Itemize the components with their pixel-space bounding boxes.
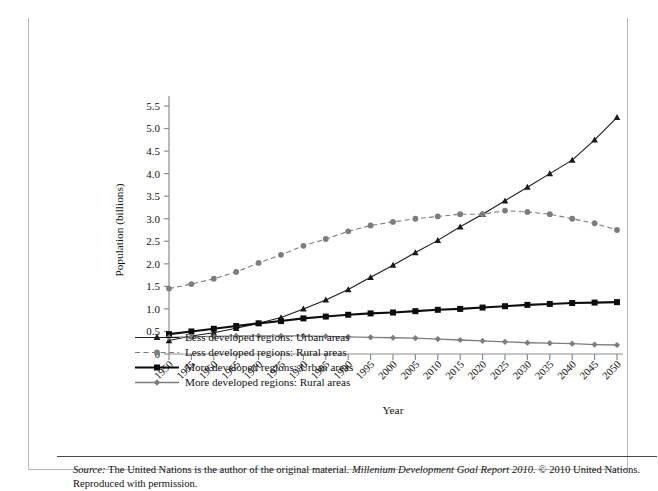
y-axis-tick-label: 1.5 bbox=[146, 280, 160, 292]
data-point bbox=[524, 302, 530, 308]
data-point bbox=[524, 340, 530, 346]
line-chart: 00.51.01.52.02.53.03.54.04.55.05.5Popula… bbox=[57, 84, 657, 456]
chart-legend: Less developed regions: Urban areas Less… bbox=[134, 330, 494, 390]
data-point bbox=[502, 339, 508, 345]
legend-item: More developed regions: Urban areas bbox=[134, 360, 494, 375]
data-point bbox=[390, 310, 396, 316]
data-point bbox=[569, 341, 575, 347]
data-point bbox=[502, 197, 509, 203]
y-axis-tick-label: 2.5 bbox=[146, 235, 160, 247]
data-point bbox=[547, 301, 553, 307]
data-point bbox=[614, 227, 620, 233]
data-point bbox=[345, 228, 351, 234]
data-point bbox=[300, 315, 306, 321]
series-0 bbox=[166, 114, 621, 343]
data-point bbox=[547, 211, 553, 217]
data-point bbox=[390, 219, 396, 225]
legend-key-square bbox=[134, 361, 180, 374]
y-axis-title: Population (billions) bbox=[113, 183, 126, 276]
legend-label: More developed regions: Urban areas bbox=[185, 360, 353, 376]
data-point bbox=[435, 307, 441, 313]
series-line bbox=[169, 117, 617, 340]
data-point bbox=[233, 323, 239, 329]
data-point bbox=[525, 209, 531, 215]
data-point bbox=[480, 211, 486, 217]
legend-item: Less developed regions: Rural areas bbox=[134, 345, 494, 360]
data-point bbox=[524, 184, 531, 190]
data-point bbox=[301, 243, 307, 249]
data-point bbox=[592, 300, 598, 306]
data-point bbox=[502, 208, 508, 214]
y-axis-tick-label: 4.0 bbox=[146, 168, 160, 180]
data-point bbox=[614, 114, 621, 120]
legend-key-triangle bbox=[134, 331, 180, 344]
x-axis-tick-label: 2035 bbox=[533, 359, 556, 382]
y-axis-tick-label: 5.0 bbox=[146, 122, 160, 134]
data-point bbox=[592, 341, 598, 347]
data-point bbox=[457, 224, 464, 230]
x-axis-tick-label: 2045 bbox=[578, 359, 601, 382]
data-point bbox=[614, 299, 620, 305]
data-point bbox=[569, 216, 575, 222]
data-point bbox=[256, 320, 262, 326]
data-point bbox=[457, 211, 463, 217]
legend-label: More developed regions: Rural areas bbox=[185, 375, 350, 391]
y-axis-tick-label: 3.5 bbox=[146, 190, 160, 202]
y-axis-tick-label: 3.0 bbox=[146, 213, 160, 225]
data-point bbox=[569, 300, 575, 306]
legend-label: Less developed regions: Rural areas bbox=[185, 345, 347, 361]
legend-item: Less developed regions: Urban areas bbox=[134, 330, 494, 345]
data-point bbox=[390, 262, 397, 268]
data-point bbox=[368, 223, 374, 229]
series-1 bbox=[166, 208, 620, 292]
data-point bbox=[435, 214, 441, 220]
source-report-title: Millenium Development Goal Report 2010. bbox=[352, 464, 536, 475]
chart-plot-area: 00.51.01.52.02.53.03.54.04.55.05.5Popula… bbox=[57, 84, 657, 456]
data-point bbox=[278, 252, 284, 258]
data-point bbox=[368, 310, 374, 316]
data-point bbox=[189, 281, 195, 287]
source-text-1: The United Nations is the author of the … bbox=[106, 464, 352, 475]
x-axis-tick-label: 2040 bbox=[555, 359, 578, 382]
data-point bbox=[614, 342, 620, 348]
y-axis-tick-label: 1.0 bbox=[146, 303, 160, 315]
legend-key-diamond bbox=[134, 376, 180, 389]
data-point bbox=[592, 220, 598, 226]
legend-label: Less developed regions: Urban areas bbox=[185, 330, 350, 346]
data-point bbox=[547, 340, 553, 346]
data-point bbox=[502, 303, 508, 309]
data-point bbox=[233, 269, 239, 275]
data-point bbox=[367, 274, 374, 280]
legend-item: More developed regions: Rural areas bbox=[134, 375, 494, 390]
data-point bbox=[278, 318, 284, 324]
data-point bbox=[412, 308, 418, 314]
data-point bbox=[457, 306, 463, 312]
source-note: Source: The United Nations is the author… bbox=[57, 456, 657, 491]
data-point bbox=[345, 312, 351, 318]
data-point bbox=[211, 276, 217, 282]
data-point bbox=[256, 260, 262, 266]
data-point bbox=[435, 237, 442, 243]
data-point bbox=[345, 286, 352, 292]
data-point bbox=[480, 305, 486, 311]
y-axis-tick-label: 4.5 bbox=[146, 145, 160, 157]
data-point bbox=[323, 297, 330, 303]
y-axis-tick-label: 2.0 bbox=[146, 258, 160, 270]
data-point bbox=[412, 249, 419, 255]
data-point bbox=[323, 236, 329, 242]
figure-card: 00.51.01.52.02.53.03.54.04.55.05.5Popula… bbox=[28, 18, 628, 470]
legend-key-circle bbox=[134, 346, 180, 359]
x-axis-tick-label: 2050 bbox=[600, 359, 623, 382]
source-prefix: Source: bbox=[73, 464, 106, 475]
data-point bbox=[323, 314, 329, 320]
x-axis-tick-label: 2030 bbox=[511, 359, 534, 382]
x-axis-title: Year bbox=[383, 404, 404, 416]
data-point bbox=[300, 306, 307, 312]
y-axis-tick-label: 5.5 bbox=[146, 100, 160, 112]
data-point bbox=[547, 170, 554, 176]
data-point bbox=[413, 216, 419, 222]
data-point bbox=[166, 286, 172, 292]
